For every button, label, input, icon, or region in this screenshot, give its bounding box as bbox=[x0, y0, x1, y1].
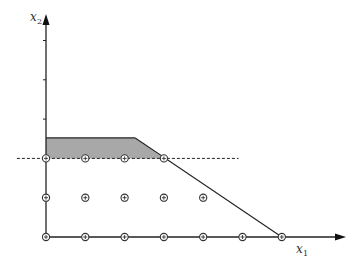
lattice-point bbox=[42, 233, 49, 240]
shaded-cut-region bbox=[46, 138, 164, 158]
lattice-point bbox=[121, 233, 128, 240]
svg-text:2: 2 bbox=[37, 17, 42, 26]
lattice-point bbox=[278, 233, 285, 240]
svg-text:x: x bbox=[30, 10, 37, 24]
svg-text:1: 1 bbox=[303, 249, 308, 258]
lattice-point bbox=[82, 194, 89, 201]
axes bbox=[43, 14, 347, 241]
lattice-point bbox=[160, 194, 167, 201]
lattice-point bbox=[200, 233, 207, 240]
lattice-point bbox=[42, 155, 49, 162]
lattice-point bbox=[82, 155, 89, 162]
y-axis-arrow-icon bbox=[43, 14, 50, 25]
integer-program-diagram: x 2 x 1 bbox=[0, 0, 363, 261]
lattice-point bbox=[160, 155, 167, 162]
lattice-point bbox=[82, 233, 89, 240]
lattice-points bbox=[42, 155, 285, 241]
x-axis-label: x 1 bbox=[296, 242, 308, 258]
lattice-point bbox=[121, 194, 128, 201]
x-axis-arrow-icon bbox=[335, 234, 346, 241]
lattice-point bbox=[160, 233, 167, 240]
y-axis-label: x 2 bbox=[30, 10, 42, 26]
lattice-point bbox=[121, 155, 128, 162]
shaded-polygon bbox=[46, 138, 164, 158]
constraint-line bbox=[135, 138, 282, 237]
lattice-point bbox=[42, 194, 49, 201]
lattice-point bbox=[200, 194, 207, 201]
svg-text:x: x bbox=[296, 242, 303, 256]
lattice-point bbox=[239, 233, 246, 240]
